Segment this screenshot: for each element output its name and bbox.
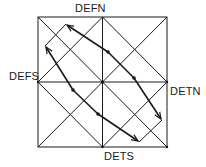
center-dot	[101, 80, 104, 83]
label-left: DEFS	[9, 70, 39, 82]
dot	[132, 76, 136, 80]
corner-dot	[166, 146, 168, 148]
dot	[106, 50, 110, 54]
diagram-canvas	[0, 0, 206, 167]
dot	[96, 112, 100, 116]
arrow-to-bottom	[98, 114, 138, 141]
label-bottom: DETS	[104, 150, 134, 162]
arrow-to-left	[46, 47, 73, 90]
label-right: DETN	[170, 85, 201, 97]
path-segment	[73, 90, 98, 114]
label-top: DEFN	[75, 2, 106, 14]
arrow-to-top	[67, 25, 108, 52]
arrow-to-right	[134, 78, 161, 119]
path-segment	[108, 52, 134, 78]
dot	[71, 88, 75, 92]
corner-dot	[166, 81, 168, 83]
corner-dot	[101, 146, 103, 148]
